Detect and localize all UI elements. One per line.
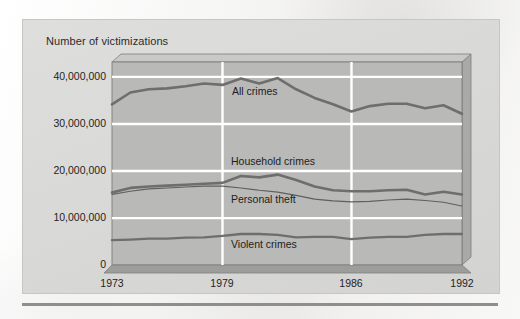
series-label-personal-theft: Personal theft (231, 193, 296, 205)
x-tick-label: 1973 (86, 277, 138, 289)
x-tick-label: 1986 (325, 277, 377, 289)
plot-side-face (462, 54, 471, 265)
y-tick-label: 0 (32, 258, 106, 270)
y-tick-label: 10,000,000 (32, 211, 106, 223)
plot-top-face (112, 54, 471, 62)
series-label-household-crimes: Household crimes (231, 155, 315, 167)
plot-floor (104, 265, 471, 273)
bottom-rule (22, 303, 498, 306)
series-label-all-crimes: All crimes (232, 85, 278, 97)
y-tick-label: 20,000,000 (32, 164, 106, 176)
x-tick-label: 1992 (436, 277, 488, 289)
y-tick-label: 30,000,000 (32, 117, 106, 129)
series-label-violent-crimes: Violent crimes (231, 238, 297, 250)
y-tick-label: 40,000,000 (32, 70, 106, 82)
x-tick-label: 1979 (196, 277, 248, 289)
figure-page: Number of victimizations (0, 0, 520, 319)
